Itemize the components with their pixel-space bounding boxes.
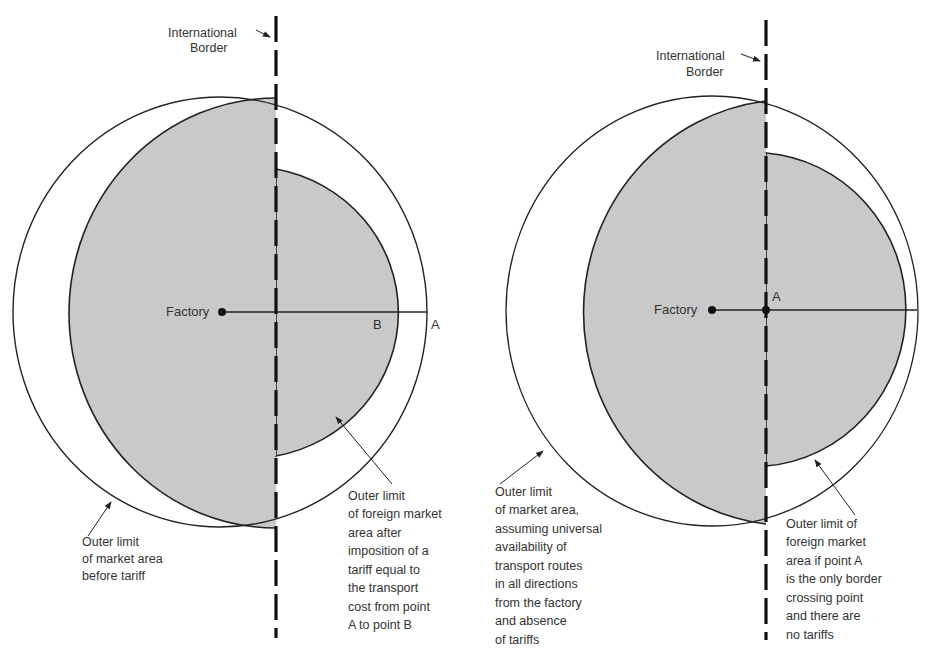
annotation-line: in all directions <box>495 577 578 591</box>
factory-point <box>708 306 716 314</box>
annotation-line: is the only border <box>786 572 882 586</box>
annotation-line: before tariff <box>82 569 146 583</box>
annotation-foreign-area-after-tariff: Outer limit of foreign market area after… <box>348 489 442 632</box>
annotation-line: and there are <box>786 609 860 623</box>
annotation-line: area after <box>348 526 402 540</box>
annotation-line: area if point A <box>786 554 863 568</box>
annotation-line: the transport <box>348 581 419 595</box>
factory-label: Factory <box>654 302 698 317</box>
annotation-line: assuming universal <box>495 522 602 536</box>
annotation-market-area-universal: Outer limit of market area, assuming uni… <box>495 485 602 647</box>
annotation-line: no tariffs <box>786 628 834 642</box>
annotation-line: and absence <box>495 614 567 628</box>
point-b-label: B <box>373 317 382 332</box>
border-label-line2: Border <box>686 65 724 79</box>
point-a-label: A <box>772 289 781 304</box>
factory-point <box>218 308 226 316</box>
annotation-line: crossing point <box>786 591 864 605</box>
annotation-line: availability of <box>495 540 567 554</box>
market-area-diagrams: International Border Factory B A Outer l… <box>0 0 929 652</box>
foreign-area-arrow <box>815 460 855 515</box>
annotation-line: Outer limit <box>495 485 552 499</box>
annotation-market-area-before-tariff: Outer limit of market area before tariff <box>82 535 163 583</box>
annotation-line: imposition of a <box>348 544 429 558</box>
annotation-line: from the factory <box>495 596 583 610</box>
annotation-line: of tariffs <box>495 633 539 647</box>
annotation-line: Outer limit <box>82 535 139 549</box>
right-diagram: International Border Factory A Outer lim… <box>495 20 918 647</box>
foreign-area-arrow <box>336 417 392 484</box>
annotation-line: of market area, <box>495 503 579 517</box>
border-label-arrow <box>256 30 270 37</box>
annotation-line: Outer limit <box>348 489 405 503</box>
market-area-arrow <box>88 502 111 536</box>
left-diagram: International Border Factory B A Outer l… <box>13 16 442 638</box>
factory-label: Factory <box>166 304 210 319</box>
annotation-line: cost from point <box>348 600 431 614</box>
annotation-line: transport routes <box>495 559 583 573</box>
point-a-label: A <box>431 317 440 332</box>
border-label-line1: International <box>656 49 725 63</box>
border-label-arrow <box>741 54 760 61</box>
annotation-line: tariff equal to <box>348 563 420 577</box>
annotation-line: A to point B <box>348 618 412 632</box>
annotation-line: foreign market <box>786 535 866 549</box>
market-area-arrow <box>500 451 543 484</box>
annotation-line: of foreign market <box>348 507 442 521</box>
annotation-line: of market area <box>82 552 163 566</box>
border-label-line1: International <box>168 26 237 40</box>
annotation-line: Outer limit of <box>786 517 857 531</box>
border-label-line2: Border <box>190 41 228 55</box>
crossing-point-a <box>762 306 770 314</box>
annotation-foreign-area-single-crossing: Outer limit of foreign market area if po… <box>786 517 882 642</box>
